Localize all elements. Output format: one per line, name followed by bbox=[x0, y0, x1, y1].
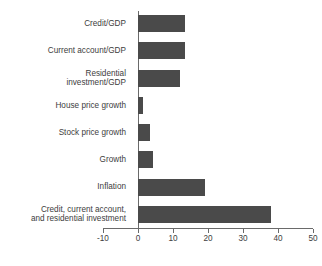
bar-row bbox=[103, 70, 313, 87]
bar-row bbox=[103, 97, 313, 114]
x-axis-tick-label: 30 bbox=[238, 234, 247, 244]
x-axis-tick-label: 0 bbox=[136, 234, 141, 244]
x-axis-tick-label: -10 bbox=[97, 234, 109, 244]
x-axis-tick bbox=[173, 229, 174, 233]
x-axis-tick bbox=[278, 229, 279, 233]
bar-row bbox=[103, 124, 313, 141]
bar bbox=[138, 70, 180, 87]
bar-row bbox=[103, 15, 313, 32]
bar bbox=[138, 15, 185, 32]
bar bbox=[138, 124, 150, 141]
bar-chart: Credit/GDPCurrent account/GDPResidential… bbox=[0, 0, 322, 266]
x-axis-tick bbox=[208, 229, 209, 233]
bar-row bbox=[103, 206, 313, 223]
bar-row bbox=[103, 42, 313, 59]
x-axis-tick bbox=[138, 229, 139, 233]
bar bbox=[138, 42, 185, 59]
x-axis-tick-label: 50 bbox=[308, 234, 317, 244]
x-axis-tick bbox=[103, 229, 104, 233]
bar bbox=[138, 97, 143, 114]
x-axis-tick-label: 20 bbox=[203, 234, 212, 244]
bar bbox=[138, 179, 205, 196]
x-axis-tick bbox=[313, 229, 314, 233]
x-axis-tick-label: 10 bbox=[168, 234, 177, 244]
bar bbox=[138, 206, 271, 223]
plot-area bbox=[103, 10, 313, 228]
bar-row bbox=[103, 151, 313, 168]
x-axis-tick-label: 40 bbox=[273, 234, 282, 244]
bar bbox=[138, 151, 153, 168]
x-axis-tick bbox=[243, 229, 244, 233]
bar-row bbox=[103, 179, 313, 196]
